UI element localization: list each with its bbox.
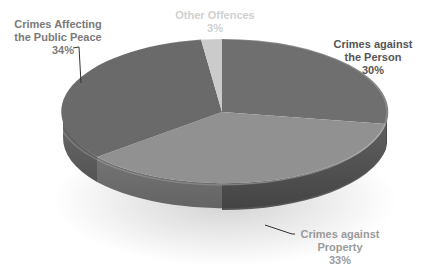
- label-property-line1: Crimes against: [290, 228, 390, 241]
- label-person-line1: Crimes against: [328, 38, 418, 51]
- label-other-offences: Other Offences 3%: [160, 9, 270, 35]
- label-public-peace-line1: Crimes Affecting: [8, 18, 108, 31]
- label-person: Crimes against the Person 30%: [328, 38, 418, 77]
- label-public-peace-line2: the Public Peace: [8, 31, 108, 44]
- label-person-line2: the Person: [328, 51, 418, 64]
- label-person-pct: 30%: [328, 64, 418, 77]
- label-property-pct: 33%: [290, 254, 390, 267]
- label-property-line2: Property: [290, 241, 390, 254]
- label-public-peace-pct: 34%: [8, 44, 108, 57]
- label-property: Crimes against Property 33%: [290, 228, 390, 267]
- label-public-peace: Crimes Affecting the Public Peace 34%: [8, 18, 108, 57]
- label-other-offences-pct: 3%: [160, 22, 270, 35]
- label-other-offences-line1: Other Offences: [160, 9, 270, 22]
